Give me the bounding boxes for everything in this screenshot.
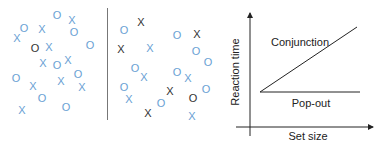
- popout-label: Pop-out: [292, 97, 331, 109]
- visual-search-figure: OXOXXOOXOXOXOOXXXOXO OXXXOXOOOXOXOXOXOOX…: [0, 0, 383, 148]
- x-axis-label: Set size: [288, 130, 327, 142]
- conjunction-label: Conjunction: [271, 36, 329, 48]
- reaction-time-graph: [0, 0, 383, 148]
- y-axis-label: Reaction time: [229, 38, 241, 105]
